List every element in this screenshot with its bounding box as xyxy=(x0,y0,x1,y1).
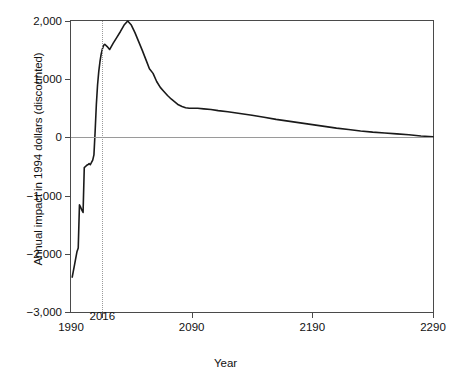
y-axis-tick-label: 0 xyxy=(56,131,62,143)
x-axis-tick-label: 2290 xyxy=(420,321,446,333)
x-axis-tick xyxy=(192,312,193,318)
y-axis-tick-label: −1,000 xyxy=(27,190,63,202)
x-axis-tick-label: 2190 xyxy=(300,321,326,333)
x-axis-title: Year xyxy=(0,357,451,369)
y-axis-title: Annual impact in 1994 dollars (discounte… xyxy=(32,9,44,309)
y-axis-tick xyxy=(65,21,71,22)
y-axis-tick-label: 1,000 xyxy=(33,73,62,85)
y-axis-tick xyxy=(65,79,71,80)
figure-container: Annual impact in 1994 dollars (discounte… xyxy=(0,0,451,383)
x-axis-tick xyxy=(433,312,434,318)
series-line xyxy=(72,21,433,277)
plot-area: 2,0001,0000−1,000−2,000−3,00019902016209… xyxy=(70,20,434,313)
y-axis-tick-label: 2,000 xyxy=(33,15,62,27)
x-axis-tick-label: 2016 xyxy=(90,310,116,322)
y-axis-tick xyxy=(65,196,71,197)
zero-reference xyxy=(71,137,433,138)
y-axis-tick-label: −3,000 xyxy=(27,306,63,318)
x-axis-tick xyxy=(312,312,313,318)
x-axis-tick-label: 2090 xyxy=(179,321,205,333)
y-axis-tick xyxy=(65,137,71,138)
y-axis-tick xyxy=(65,312,71,313)
x-axis-tick-label: 1990 xyxy=(58,321,84,333)
line-series-annual-impact xyxy=(71,21,433,312)
y-axis-tick-label: −2,000 xyxy=(27,248,63,260)
y-axis-tick xyxy=(65,254,71,255)
marker-2016 xyxy=(102,21,103,312)
